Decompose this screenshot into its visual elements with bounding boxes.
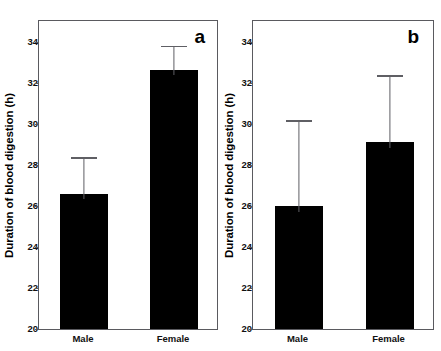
y-axis-tick-20 [35,329,39,330]
y-axis-tick-labels-b: 2022242628303234 [228,0,252,351]
y-axis-tick-34 [35,42,39,43]
y-axis-tick-28 [249,165,253,166]
y-axis-tick-34 [249,42,253,43]
panel-b: Duration of blood digestion (h) 20222426… [220,0,441,351]
y-axis-tick-32 [35,83,39,84]
y-axis-tick-22 [249,288,253,289]
panel-letter-a: a [194,27,205,46]
error-bar-stem-male [83,157,84,199]
y-axis-tick-30 [35,124,39,125]
x-axis-tick-label-male: Male [72,333,93,344]
y-axis-tick-30 [249,124,253,125]
bar-female [150,70,198,329]
error-bar-stem-male [298,120,299,211]
y-axis-tick-24 [35,247,39,248]
y-axis-tick-26 [249,206,253,207]
error-bar-cap-male [71,157,97,158]
error-bar-cap-male [286,120,312,121]
y-axis-tick-labels-a: 2022242628303234 [14,0,38,351]
x-axis-tick-label-female: Female [372,333,405,344]
y-axis-tick-24 [249,247,253,248]
error-bar-stem-female [173,46,174,76]
bar-female [366,142,414,329]
figure-container: Duration of blood digestion (h) 20222426… [0,0,441,351]
error-bar-stem-female [389,75,390,148]
y-axis-tick-28 [35,165,39,166]
x-axis-tick-label-female: Female [157,333,190,344]
y-axis-tick-20 [249,329,253,330]
y-axis-tick-22 [35,288,39,289]
error-bar-cap-female [377,75,403,76]
bar-male [60,194,108,329]
x-axis-tick-label-male: Male [287,333,308,344]
error-bar-cap-female [161,46,187,47]
plot-area-a: a [38,20,218,330]
bar-male [275,206,323,329]
y-axis-tick-26 [35,206,39,207]
panel-a: Duration of blood digestion (h) 20222426… [0,0,220,351]
plot-area-b: b [252,20,434,330]
y-axis-tick-32 [249,83,253,84]
panel-letter-b: b [407,27,419,46]
